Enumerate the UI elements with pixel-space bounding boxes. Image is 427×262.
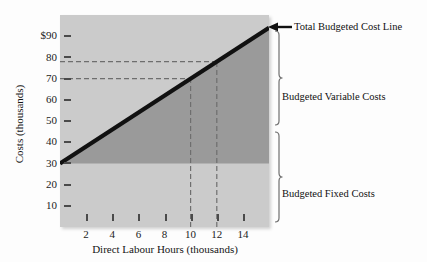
- y-tick-label: 60: [46, 94, 57, 105]
- x-tick-mark: [191, 214, 193, 221]
- annotation-budgeted-fixed-costs: Budgeted Fixed Costs: [282, 188, 375, 199]
- budgeted-cost-chart: $90 80 70 60 50 40 30 20 10 2 4 6 8 10: [0, 0, 427, 262]
- y-tick-label: 20: [46, 179, 57, 190]
- y-axis-title: Costs (thousands): [13, 49, 25, 199]
- x-tick-label: 14: [231, 229, 255, 240]
- annotation-total-budgeted-cost-line: Total Budgeted Cost Line: [294, 21, 402, 32]
- y-tick-label: $90: [41, 30, 58, 41]
- x-tick-label: 4: [100, 229, 124, 240]
- left-arrow-icon: [268, 23, 292, 32]
- x-tick-label: 2: [74, 229, 98, 240]
- y-axis: $90 80 70 60 50 40 30 20 10: [0, 0, 57, 262]
- y-tick-label: 70: [46, 73, 57, 84]
- x-tick-label: 12: [205, 229, 229, 240]
- x-axis-title: Direct Labour Hours (thousands): [40, 243, 290, 255]
- x-tick-label: 10: [179, 229, 203, 240]
- x-tick-mark: [86, 214, 88, 221]
- y-tick-label: 80: [46, 52, 57, 63]
- y-tick-label: 30: [46, 158, 57, 169]
- x-tick-mark: [243, 214, 245, 221]
- x-tick-mark: [138, 214, 140, 221]
- annotation-budgeted-variable-costs: Budgeted Variable Costs: [282, 91, 386, 102]
- y-tick-label: 50: [46, 115, 57, 126]
- x-tick-marks: [60, 15, 269, 227]
- x-tick-mark: [165, 214, 167, 221]
- x-tick-mark: [112, 214, 114, 221]
- y-tick-label: 10: [46, 200, 57, 211]
- x-tick-label: 8: [153, 229, 177, 240]
- x-tick-label: 6: [126, 229, 150, 240]
- x-tick-mark: [217, 214, 219, 221]
- y-tick-label: 40: [46, 136, 57, 147]
